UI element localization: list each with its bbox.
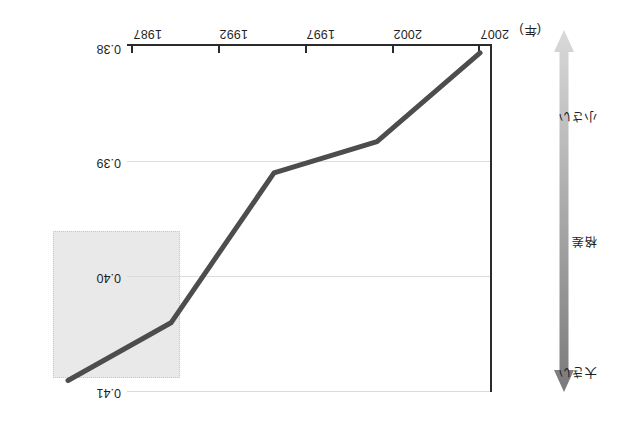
series-line: [0, 0, 619, 422]
legend-label-middle: 格差: [581, 234, 597, 248]
plot-area: 1987 1992 1997 2002 2007 (年) 0.41 0.40 0…: [0, 0, 619, 422]
legend-label-small: 小さい: [581, 109, 597, 123]
legend-label-large: 大きい: [581, 365, 597, 379]
gradient-arrow-icon: [553, 30, 575, 392]
chart-figure: 1987 1992 1997 2002 2007 (年) 0.41 0.40 0…: [0, 0, 619, 422]
